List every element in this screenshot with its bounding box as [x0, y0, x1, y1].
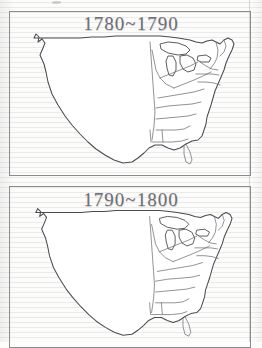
florida-peninsula-outline: [183, 317, 191, 337]
scan-artifact-speck: [52, 1, 61, 5]
continental-us-outline-path: [36, 209, 232, 336]
us-outline-map-first: [10, 12, 248, 173]
map-title-first: 1780~1790: [0, 13, 262, 35]
continental-us-outline-path: [34, 34, 234, 163]
florida-peninsula-outline: [184, 144, 192, 164]
map-title-second: 1790~1800: [0, 189, 262, 211]
